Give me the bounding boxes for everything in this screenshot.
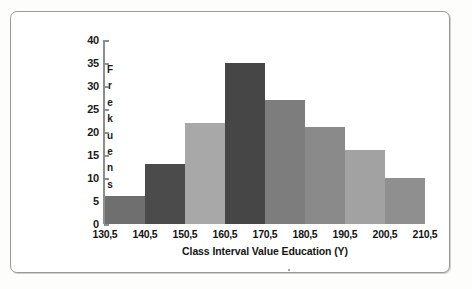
- histogram-bar: [265, 100, 305, 224]
- x-axis-tick-label: 200,5: [373, 228, 398, 240]
- x-axis-tick-label: 180,5: [293, 228, 318, 240]
- histogram-bars: [105, 40, 425, 224]
- y-axis-tick-mark: [104, 224, 109, 226]
- x-axis-title: Class Interval Value Education (Y): [105, 245, 425, 257]
- histogram-bar: [105, 196, 145, 224]
- histogram-plot-area: Frekuensi 0510152025303540 130,5140,5150…: [73, 29, 436, 230]
- y-axis-tick-label: 5: [93, 195, 99, 207]
- x-axis-tick-label: 160,5: [213, 228, 238, 240]
- histogram-bar: [305, 127, 345, 224]
- x-axis-tick-label: 170,5: [253, 228, 278, 240]
- histogram-bar: [185, 123, 225, 224]
- x-axis-tick-label: 130,5: [93, 228, 118, 240]
- histogram-bar: [385, 178, 425, 224]
- x-axis-tick-labels: 130,5140,5150,5160,5170,5180,5190,5200,5…: [105, 228, 425, 244]
- histogram-bar: [145, 164, 185, 224]
- x-axis-tick-label: 190,5: [333, 228, 358, 240]
- x-axis-tick-label: 210,5: [413, 228, 438, 240]
- y-axis-tick-label: 20: [87, 126, 99, 138]
- scanned-page: Frekuensi 0510152025303540 130,5140,5150…: [0, 0, 472, 289]
- chart-frame: Frekuensi 0510152025303540 130,5140,5150…: [10, 11, 450, 273]
- histogram-bar: [225, 63, 265, 224]
- x-axis-tick-label: 140,5: [133, 228, 158, 240]
- y-axis-tick-label: 25: [87, 103, 99, 115]
- y-axis-tick-label: 35: [87, 57, 99, 69]
- y-axis-tick-label: 30: [87, 80, 99, 92]
- y-axis-tick-label: 15: [87, 149, 99, 161]
- histogram-bar: [345, 150, 385, 224]
- y-axis-tick-label: 40: [87, 34, 99, 46]
- y-axis-tick-label: 10: [87, 172, 99, 184]
- x-axis-tick-label: 150,5: [173, 228, 198, 240]
- scan-artifact-dot: [288, 269, 290, 271]
